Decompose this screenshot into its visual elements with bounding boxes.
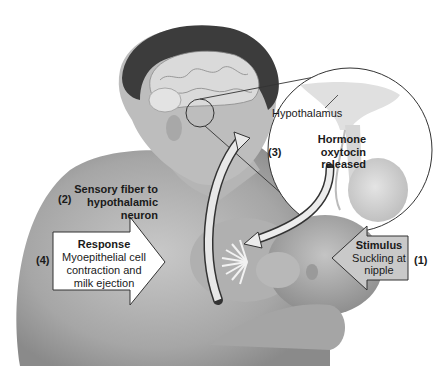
step1-number: (1) xyxy=(414,254,427,266)
step2-line3: neuron xyxy=(70,209,158,221)
step1-line2: nipple xyxy=(346,264,412,276)
step2-line2: hypothalamic xyxy=(70,196,158,208)
step1-line1: Suckling at xyxy=(346,252,412,264)
step3-line1: oxytocin xyxy=(290,146,366,158)
oxytocin-reflex-diagram: Hypothalamus Hormone (3) oxytocin releas… xyxy=(0,0,442,366)
step4-line3: milk ejection xyxy=(54,277,154,289)
step1-title: Stimulus xyxy=(350,239,408,251)
step2-line1: Sensory fiber to xyxy=(70,183,158,195)
step4-number: (4) xyxy=(36,254,49,266)
step3-line2: released xyxy=(290,158,366,170)
illustration xyxy=(0,0,442,366)
hypothalamus-label: Hypothalamus xyxy=(272,107,342,119)
step3-number: (3) xyxy=(268,146,281,158)
step4-title: Response xyxy=(54,238,154,250)
step3-title: Hormone xyxy=(300,133,366,145)
step4-line2: contraction and xyxy=(54,264,154,276)
step4-line1: Myoepithelial cell xyxy=(54,251,154,263)
